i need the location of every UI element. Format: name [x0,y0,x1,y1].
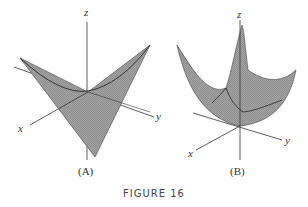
caption-b: (B) [230,165,245,177]
y-axis-label-b: y [285,134,290,146]
x-axis-b [196,126,240,150]
panel-b-paraboloid [177,20,296,160]
z-axis-label-b: z [237,8,241,20]
x-axis-label-a: x [18,122,23,134]
figure-title: FIGURE 16 [0,188,308,199]
panel-a-saddle [14,22,154,160]
figure-canvas [0,0,308,207]
x-axis-label-b: x [188,147,193,159]
z-axis-label-a: z [84,6,88,18]
y-axis-label-a: y [156,110,161,122]
caption-a: (A) [78,165,93,177]
saddle-surface [20,45,150,157]
paraboloid-surface [177,25,296,126]
